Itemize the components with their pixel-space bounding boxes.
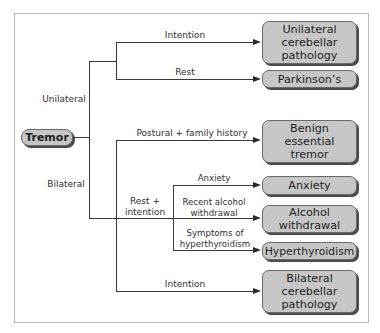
edge-intention-uni: [116, 42, 254, 43]
node-anxiety: Anxiety: [262, 176, 357, 195]
bilateral-vertical: [116, 140, 117, 292]
arrow-icon: [253, 76, 261, 82]
edge-anxiety: [173, 185, 254, 186]
node-alcohol-withdrawal: Alcohol withdrawal: [262, 205, 357, 233]
label-alcohol: Recent alcohol withdrawal: [174, 197, 254, 218]
edge-root: [73, 137, 89, 138]
edge-bilateral: [89, 218, 254, 219]
label-anxiety: Anxiety: [176, 173, 252, 184]
arrow-icon: [253, 288, 261, 294]
label-rest: Rest: [140, 67, 230, 78]
arrow-icon: [253, 182, 261, 188]
node-tremor: Tremor: [21, 129, 73, 146]
label-intention-bi: Intention: [140, 279, 230, 290]
node-benign-essential-tremor: Benign essential tremor: [262, 120, 357, 163]
label-unilateral: Unilateral: [40, 94, 88, 105]
label-intention-uni: Intention: [140, 30, 230, 41]
arrow-icon: [253, 137, 261, 143]
edge-intention-bi: [116, 291, 254, 292]
node-hyperthyroidism: Hyperthyroidism: [262, 242, 357, 260]
label-postural: Postural + family history: [130, 128, 254, 139]
node-unilateral-cerebellar: Unilateral cerebellar pathology: [262, 21, 357, 64]
trunk-vertical: [89, 61, 90, 219]
edge-postural: [116, 140, 254, 141]
edge-unilateral: [89, 61, 116, 62]
arrow-icon: [253, 39, 261, 45]
unilateral-vertical: [116, 42, 117, 80]
edge-hyper: [173, 250, 254, 251]
label-bilateral: Bilateral: [44, 179, 88, 190]
edge-rest: [116, 79, 254, 80]
node-bilateral-cerebellar: Bilateral cerebellar pathology: [262, 270, 357, 313]
node-parkinsons: Parkinson’s: [262, 70, 357, 88]
label-hyper: Symptoms of hyperthyroidism: [173, 228, 257, 249]
label-rest-intention: Rest + intention: [118, 196, 172, 217]
arrow-icon: [253, 215, 261, 221]
